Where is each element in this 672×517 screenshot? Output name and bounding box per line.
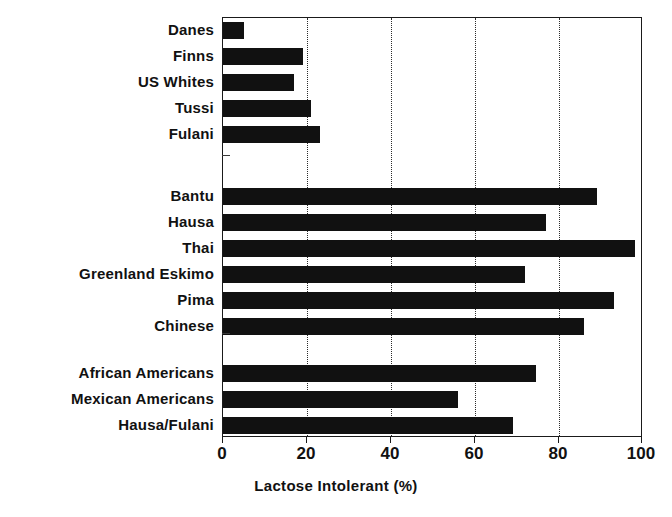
bar-us-whites xyxy=(223,74,294,91)
category-label-hausa-fulani: Hausa/Fulani xyxy=(118,416,214,433)
xtick-label-100: 100 xyxy=(627,444,655,464)
bar-bantu xyxy=(223,188,597,205)
bar-hausa-fulani xyxy=(223,417,513,434)
bar-mexican-americans xyxy=(223,391,458,408)
lactose-intolerance-bar-chart: Danes Finns US Whites Tussi Fulani Bantu… xyxy=(0,0,672,517)
bar-greenland-eskimo xyxy=(223,266,525,283)
xtick-mark-20 xyxy=(306,437,307,443)
gridline-80 xyxy=(559,18,560,436)
category-label-african-americans: African Americans xyxy=(79,364,214,381)
xtick-label-0: 0 xyxy=(217,444,226,464)
bar-pima xyxy=(223,292,614,309)
xtick-label-80: 80 xyxy=(549,444,568,464)
bar-thai xyxy=(223,240,635,257)
category-label-pima: Pima xyxy=(177,291,214,308)
group-separator-tick-1 xyxy=(222,155,230,156)
xtick-label-40: 40 xyxy=(381,444,400,464)
xtick-mark-0 xyxy=(222,437,223,443)
bar-danes xyxy=(223,22,244,39)
category-label-thai: Thai xyxy=(182,239,214,256)
category-label-mexican-americans: Mexican Americans xyxy=(71,390,214,407)
xtick-label-20: 20 xyxy=(297,444,316,464)
plot-area xyxy=(222,17,642,437)
bar-tussi xyxy=(223,100,311,117)
bar-african-americans xyxy=(223,365,536,382)
category-label-greenland-eskimo: Greenland Eskimo xyxy=(79,265,214,282)
group-separator-tick-2 xyxy=(222,333,230,334)
category-label-column: Danes Finns US Whites Tussi Fulani Bantu… xyxy=(0,17,218,437)
xtick-mark-80 xyxy=(558,437,559,443)
bar-fulani xyxy=(223,126,320,143)
x-axis-title: Lactose Intolerant (%) xyxy=(0,477,672,494)
xtick-mark-40 xyxy=(390,437,391,443)
bar-hausa xyxy=(223,214,546,231)
category-label-tussi: Tussi xyxy=(175,99,214,116)
xtick-mark-60 xyxy=(474,437,475,443)
bar-finns xyxy=(223,48,303,65)
category-label-chinese: Chinese xyxy=(154,317,214,334)
xtick-mark-100 xyxy=(641,437,642,443)
category-label-us-whites: US Whites xyxy=(138,73,214,90)
category-label-finns: Finns xyxy=(173,47,214,64)
category-label-danes: Danes xyxy=(168,21,214,38)
bar-chinese xyxy=(223,318,584,335)
category-label-hausa: Hausa xyxy=(168,213,214,230)
category-label-fulani: Fulani xyxy=(169,125,214,142)
category-label-bantu: Bantu xyxy=(171,187,215,204)
xtick-label-60: 60 xyxy=(465,444,484,464)
